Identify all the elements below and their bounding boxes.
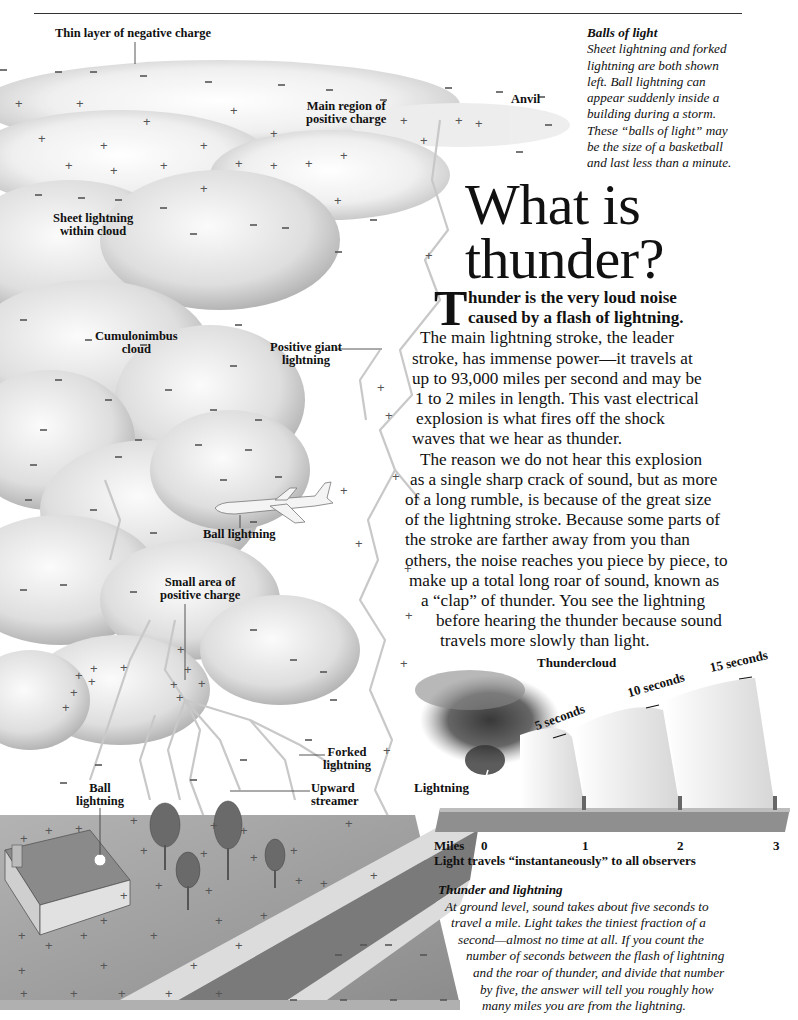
miles-tick: 2 (677, 838, 684, 854)
label-upward-line2: streamer (311, 794, 359, 808)
body-line: before hearing the thunder because sound (412, 611, 792, 631)
svg-text:+: + (120, 888, 128, 903)
label-cumulonimbus-line2: cloud (122, 342, 151, 356)
label-small-positive-area-line1: Small area of (165, 575, 236, 589)
svg-text:+: + (176, 690, 184, 705)
svg-text:+: + (260, 908, 268, 923)
label-positive-giant-line1: Positive giant (270, 340, 342, 354)
miles-tick: 1 (582, 838, 589, 854)
svg-text:+: + (320, 876, 328, 891)
svg-text:+: + (235, 156, 243, 171)
label-sheet-lightning-line1: Sheet lightning (53, 211, 133, 225)
miles-tick: 0 (481, 838, 488, 854)
sidebar-note-line: appear suddenly inside a (587, 90, 787, 106)
svg-text:+: + (235, 938, 243, 953)
svg-text:+: + (400, 113, 408, 128)
svg-text:+: + (290, 843, 298, 858)
svg-text:+: + (120, 660, 128, 675)
label-forked-lightning: Forked lightning (323, 746, 371, 772)
label-small-positive-area-line2: positive charge (160, 588, 240, 602)
sidebar-note-line: left. Ball lightning can (587, 74, 787, 90)
svg-text:+: + (340, 148, 348, 163)
svg-text:+: + (345, 816, 353, 831)
svg-text:+: + (383, 743, 391, 758)
sidebar-note-line: These “balls of light” may (587, 123, 787, 139)
svg-text:+: + (377, 380, 385, 395)
svg-text:+: + (370, 868, 378, 883)
svg-text:+: + (150, 928, 158, 943)
sidebar-note-title: Balls of light (587, 25, 787, 41)
label-ball-house-line1: Ball (89, 781, 111, 795)
svg-text:+: + (270, 158, 278, 173)
svg-text:+: + (420, 133, 428, 148)
svg-text:+: + (200, 138, 208, 153)
label-ball-house-line2: lightning (76, 794, 124, 808)
label-forked-line1: Forked (328, 745, 367, 759)
svg-text:+: + (18, 963, 26, 978)
thunder-distance-diagram (415, 670, 790, 832)
sidebar-note-line: building during a storm. (587, 106, 787, 122)
svg-text:+: + (198, 676, 206, 691)
label-cumulonimbus-line1: Cumulonimbus (95, 329, 178, 343)
miles-axis: Miles 0 1 2 3 (434, 838, 794, 854)
svg-text:+: + (62, 700, 70, 715)
svg-text:+: + (75, 821, 83, 836)
svg-text:+: + (210, 818, 218, 833)
svg-text:+: + (118, 986, 126, 1001)
label-upward-streamer: Upward streamer (311, 782, 359, 808)
svg-text:+: + (165, 986, 173, 1001)
sidebar-note-balls-of-light: Balls of light Sheet lightning and forke… (587, 25, 787, 172)
caption-line: At ground level, sound takes about five … (438, 899, 788, 916)
svg-text:+: + (38, 131, 46, 146)
body-line: the stroke are farther away from you tha… (405, 530, 792, 550)
body-line: stroke, has immense power—it travels at (412, 349, 792, 369)
body-line: up to 93,000 miles per second and may be (412, 369, 792, 389)
caption-line: and the roar of thunder, and divide that… (438, 965, 788, 982)
svg-text:+: + (400, 656, 408, 671)
label-thundercloud: Thundercloud (537, 655, 616, 671)
label-small-positive-area: Small area of positive charge (160, 576, 240, 602)
caption-line: by five, the answer will tell you roughl… (438, 982, 788, 999)
svg-text:+: + (143, 114, 151, 129)
body-line: The main lightning stroke, the leader (412, 328, 792, 348)
body-line: make up a total long roar of sound, know… (409, 571, 792, 591)
svg-text:+: + (177, 642, 185, 657)
svg-text:+: + (140, 843, 148, 858)
sidebar-note-line: be the size of a basketball (587, 139, 787, 155)
svg-text:+: + (425, 248, 433, 263)
svg-text:+: + (45, 823, 53, 838)
svg-text:+: + (215, 913, 223, 928)
svg-text:+: + (215, 986, 223, 1001)
label-sheet-lightning-line2: within cloud (60, 224, 126, 238)
svg-text:+: + (305, 156, 313, 171)
svg-text:+: + (45, 938, 53, 953)
svg-text:+: + (100, 958, 108, 973)
label-thin-negative-layer: Thin layer of negative charge (55, 27, 211, 40)
svg-text:+: + (455, 113, 463, 128)
svg-text:+: + (130, 813, 138, 828)
body-copy: hunder is the very loud noise caused by … (412, 288, 792, 652)
sidebar-note-line: lightning are both shown (587, 58, 787, 74)
svg-text:+: + (160, 158, 168, 173)
sidebar-note-line: and last less than a minute. (587, 155, 787, 171)
body-line: of the lightning stroke. Because some pa… (405, 510, 792, 530)
caption-title: Thunder and lightning (438, 882, 788, 899)
caption-thunder-and-lightning: Thunder and lightning At ground level, s… (438, 882, 788, 1015)
page-title: What is thunder? (465, 178, 664, 286)
label-ball-lightning-plane: Ball lightning (203, 528, 276, 541)
svg-text:+: + (475, 116, 483, 131)
body-line: of a long rumble, is because of the grea… (405, 490, 792, 510)
cumulonimbus-cloud (0, 170, 360, 750)
caption-line: many miles you are from the lightning. (438, 998, 788, 1015)
svg-text:+: + (355, 536, 363, 551)
svg-text:+: + (250, 850, 258, 865)
miles-tick: 3 (773, 838, 780, 854)
svg-text:+: + (190, 958, 198, 973)
caption-line: number of seconds between the flash of l… (438, 948, 788, 965)
svg-text:+: + (15, 96, 23, 111)
body-line: as a single sharp crack of sound, but as… (410, 470, 792, 490)
svg-text:+: + (334, 193, 342, 208)
label-positive-giant-line2: lightning (282, 353, 330, 367)
body-line: 1 to 2 miles in length. This vast electr… (412, 389, 792, 409)
label-main-positive-region-line2: positive charge (306, 112, 386, 126)
